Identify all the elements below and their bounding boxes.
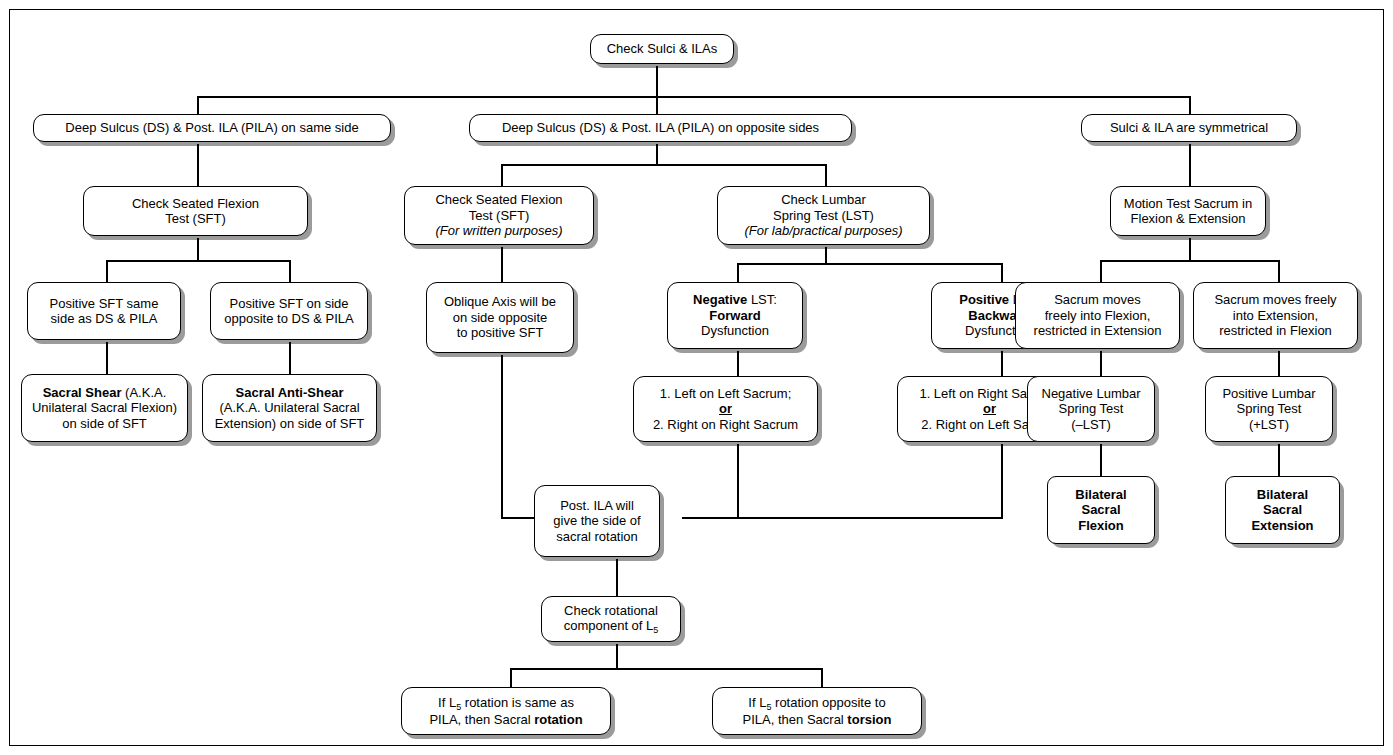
node-label-line2: give the side of xyxy=(553,513,640,528)
node-label-subscript: 5 xyxy=(456,702,461,712)
node-label-line2a: PILA, then Sacral xyxy=(429,712,534,727)
connector-opposite-to-lst xyxy=(825,164,827,186)
node-bilateral-sacral-flexion[interactable]: Bilateral Sacral Flexion xyxy=(1047,476,1155,544)
node-label-line2: Spring Test xyxy=(1059,401,1124,416)
connector-checkrot-bus xyxy=(510,668,823,670)
node-label-line2: Test (SFT) xyxy=(165,211,226,226)
node-label-line2: into Extension, xyxy=(1233,308,1318,323)
node-label-line1: Oblique Axis will be xyxy=(444,294,556,309)
node-ds-pila-same-side[interactable]: Deep Sulcus (DS) & Post. ILA (PILA) on s… xyxy=(33,114,391,142)
node-label-line3: (+LST) xyxy=(1249,417,1289,432)
node-label-line3: (–LST) xyxy=(1071,417,1111,432)
connector-sftleft-to-posopp xyxy=(289,260,291,282)
node-sacral-anti-shear[interactable]: Sacral Anti-Shear (A.K.A. Unilateral Sac… xyxy=(202,374,377,442)
node-ds-pila-opposite-sides[interactable]: Deep Sulcus (DS) & Post. ILA (PILA) on o… xyxy=(469,114,852,142)
connector-leftright-down xyxy=(1001,444,1003,517)
node-label-line2: Spring Test (LST) xyxy=(773,208,874,223)
connector-opposite-bus xyxy=(501,164,826,166)
node-positive-sft-opposite-side[interactable]: Positive SFT on side opposite to DS & PI… xyxy=(210,282,368,340)
node-label-line3: to positive SFT xyxy=(457,325,544,340)
node-label-line1: Check Seated Flexion xyxy=(132,196,259,211)
node-label-line1: Bilateral xyxy=(1075,487,1126,502)
node-check-lumbar-spring-test[interactable]: Check Lumbar Spring Test (LST) (For lab/… xyxy=(717,186,930,245)
node-positive-sft-same-side[interactable]: Positive SFT same side as DS & PILA xyxy=(27,282,181,340)
node-label-subscript: 5 xyxy=(653,625,658,635)
connector-sftleft-down xyxy=(197,238,199,260)
connector-opposite-down xyxy=(656,144,658,164)
node-label-line1: Check rotational xyxy=(564,603,658,618)
node-label: Check Sulci & ILAs xyxy=(596,41,728,57)
node-sacrum-free-extension[interactable]: Sacrum moves freely into Extension, rest… xyxy=(1193,282,1358,349)
node-motion-test-sacrum[interactable]: Motion Test Sacrum in Flexion & Extensio… xyxy=(1110,186,1266,236)
connector-leftleft-down xyxy=(737,444,739,517)
node-label-line2a: component of L xyxy=(564,618,654,633)
node-check-seated-flexion-left[interactable]: Check Seated Flexion Test (SFT) xyxy=(83,186,308,236)
node-left-on-left-sacrum[interactable]: 1. Left on Left Sacrum; or 2. Right on R… xyxy=(633,376,818,442)
node-label-line2: side as DS & PILA xyxy=(51,311,158,326)
node-label-line1-bold: Negative xyxy=(693,292,747,307)
node-label-line2a: PILA, then Sacral xyxy=(743,712,848,727)
node-label-line2: Sacral xyxy=(1263,502,1302,517)
node-label-line2: Unilateral Sacral Flexion) xyxy=(32,400,177,415)
connector-postila-down xyxy=(616,559,618,596)
node-sacrum-free-flexion[interactable]: Sacrum moves freely into Flexion, restri… xyxy=(1015,282,1180,349)
node-negative-lst-forward[interactable]: Negative LST: Forward Dysfunction xyxy=(667,282,803,349)
node-label-line1: Check Seated Flexion xyxy=(435,192,562,207)
node-label-line2: Flexion & Extension xyxy=(1131,211,1246,226)
node-label-line1-bold: Sacral Anti-Shear xyxy=(236,385,344,400)
node-label-line1: Post. ILA will xyxy=(560,498,634,513)
connector-checkrot-to-same xyxy=(510,668,512,689)
connector-possame-down xyxy=(106,342,108,374)
node-label: Deep Sulcus (DS) & Post. ILA (PILA) on s… xyxy=(39,120,385,136)
node-label-line3: sacral rotation xyxy=(556,529,638,544)
connector-motion-down xyxy=(1189,238,1191,260)
connector-lst-to-pos xyxy=(1001,263,1003,282)
node-label-line1: Motion Test Sacrum in xyxy=(1124,196,1252,211)
node-label-line1: Sacrum moves freely xyxy=(1214,292,1336,307)
node-label-line1-rest: (A.K.A. xyxy=(121,385,166,400)
connector-poslumbar-down xyxy=(1278,444,1280,476)
node-check-rotational-component-l5[interactable]: Check rotational component of L5 xyxy=(541,596,681,642)
node-oblique-axis[interactable]: Oblique Axis will be on side opposite to… xyxy=(426,282,574,353)
node-label-line3: 2. Right on Right Sacrum xyxy=(653,417,798,432)
connector-bus-to-symmetrical xyxy=(1189,96,1191,114)
node-label-line1: Positive Lumbar xyxy=(1222,386,1315,401)
node-label-line3: restricted in Extension xyxy=(1034,323,1162,338)
node-label-line1-bold: Positive xyxy=(959,292,1009,307)
node-label-line2b: torsion xyxy=(847,712,891,727)
node-post-ila-side-of-rotation[interactable]: Post. ILA will give the side of sacral r… xyxy=(534,485,660,557)
node-label-line1b: rotation is same as xyxy=(461,695,574,710)
node-label-line2: Sacral xyxy=(1081,502,1120,517)
connector-opposite-to-sft xyxy=(501,164,503,186)
connector-oblique-down xyxy=(501,355,503,517)
node-label-line1: Check Lumbar xyxy=(781,192,866,207)
connector-sacflex-down xyxy=(1100,351,1102,376)
node-label-or: or xyxy=(719,401,732,416)
node-label-line1: 1. Left on Left Sacrum; xyxy=(660,386,792,401)
node-l5-opposite-sacral-torsion[interactable]: If L5 rotation opposite to PILA, then Sa… xyxy=(712,687,922,735)
node-sacral-shear[interactable]: Sacral Shear (A.K.A. Unilateral Sacral F… xyxy=(21,374,188,442)
connector-top-bus xyxy=(197,96,1189,98)
node-check-sulci-ilas[interactable]: Check Sulci & ILAs xyxy=(590,34,734,64)
connector-neglumbar-down xyxy=(1100,444,1102,476)
node-label-line1-bold: Sacral Shear xyxy=(43,385,122,400)
connector-neglst-down xyxy=(737,351,739,376)
connector-sacext-down xyxy=(1278,351,1280,376)
node-sulci-ila-symmetrical[interactable]: Sulci & ILA are symmetrical xyxy=(1081,114,1297,142)
node-negative-lumbar-spring-test[interactable]: Negative Lumbar Spring Test (–LST) xyxy=(1027,376,1155,442)
node-label-line2: freely into Flexion, xyxy=(1045,308,1151,323)
connector-lst-bus xyxy=(737,263,1001,265)
node-label-line2: Spring Test xyxy=(1237,401,1302,416)
node-label-line1-rest: LST: xyxy=(747,292,777,307)
node-check-seated-flexion-written[interactable]: Check Seated Flexion Test (SFT) (For wri… xyxy=(404,186,594,245)
node-label-line2: (A.K.A. Unilateral Sacral xyxy=(219,400,359,415)
node-positive-lumbar-spring-test[interactable]: Positive Lumbar Spring Test (+LST) xyxy=(1205,376,1333,442)
node-label-line2: Test (SFT) xyxy=(469,208,530,223)
connector-symmetrical-down xyxy=(1189,144,1191,186)
connector-same-down xyxy=(197,144,199,186)
node-label-line1: Bilateral xyxy=(1257,487,1308,502)
node-l5-same-sacral-rotation[interactable]: If L5 rotation is same as PILA, then Sac… xyxy=(401,687,611,735)
connector-motion-to-flex xyxy=(1100,260,1102,282)
node-label-line1: Sacrum moves xyxy=(1054,292,1141,307)
node-bilateral-sacral-extension[interactable]: Bilateral Sacral Extension xyxy=(1225,476,1340,544)
